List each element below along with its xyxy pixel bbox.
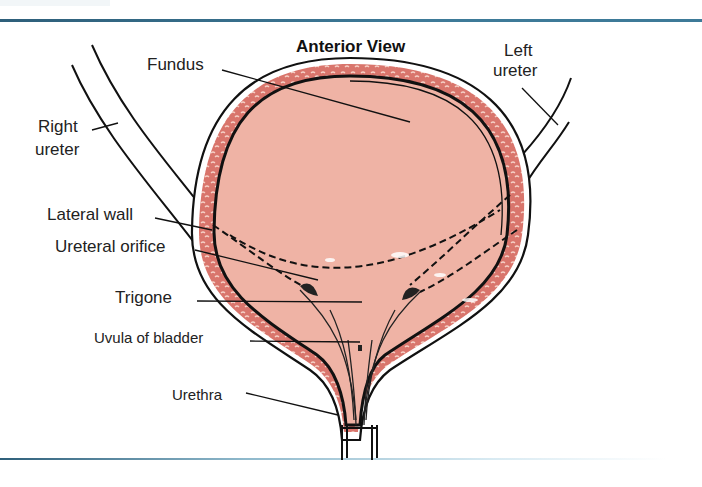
label-left-ureter-line2: ureter bbox=[493, 61, 537, 81]
figure-title: Anterior View bbox=[296, 37, 405, 57]
label-right-ureter-line1: Right bbox=[38, 117, 78, 137]
bladder-lumen bbox=[214, 76, 509, 425]
label-left-ureter-line1: Left bbox=[504, 41, 532, 61]
bladder-diagram: Anterior View Fundus Left ureter Right u… bbox=[0, 0, 702, 487]
label-ureteral-orifice: Ureteral orifice bbox=[55, 237, 166, 257]
left-ureter bbox=[522, 78, 571, 185]
label-urethra: Urethra bbox=[172, 385, 222, 405]
label-right-ureter-line2: ureter bbox=[35, 140, 79, 160]
label-trigone: Trigone bbox=[115, 288, 172, 308]
label-lateral-wall: Lateral wall bbox=[47, 205, 133, 225]
label-fundus: Fundus bbox=[147, 55, 204, 75]
label-uvula-of-bladder: Uvula of bladder bbox=[94, 328, 203, 348]
